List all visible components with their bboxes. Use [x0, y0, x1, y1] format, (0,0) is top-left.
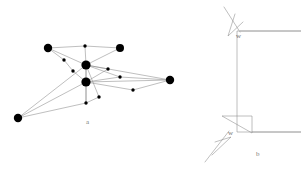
- graph-edge: [133, 80, 170, 90]
- graph-edge: [48, 48, 86, 65]
- graph-node-small: [118, 75, 121, 78]
- graph-node-group: [14, 44, 174, 122]
- graph-edge: [18, 103, 86, 118]
- graph-edge: [64, 60, 73, 71]
- graph-edge: [18, 82, 86, 118]
- graph-edge-group: [18, 46, 170, 118]
- graph-node-small: [62, 58, 65, 61]
- graph-edge: [86, 97, 99, 103]
- graph-node-small: [83, 44, 86, 47]
- region-outline: [237, 31, 301, 132]
- graph-node-large: [14, 114, 22, 122]
- figure-root: a w w b: [0, 0, 301, 174]
- width-label-top: w: [236, 33, 241, 40]
- graph-edge: [18, 65, 86, 118]
- top-diagonal-line: [224, 7, 240, 32]
- graph-edge: [86, 48, 120, 65]
- width-label-bottom: w: [228, 130, 233, 137]
- panel-a-caption: a: [86, 119, 89, 126]
- graph-node-large: [116, 44, 124, 52]
- graph-node-large: [44, 44, 52, 52]
- graph-edge: [86, 82, 133, 90]
- bottom-arrow-wedge-icon: [212, 137, 231, 155]
- graph-node-small: [131, 88, 134, 91]
- graph-node-small: [71, 69, 74, 72]
- panel-a-svg: [0, 0, 195, 174]
- graph-node-large: [81, 77, 90, 86]
- graph-node-large: [166, 76, 174, 84]
- graph-node-small: [97, 95, 100, 98]
- panel-b-diagram: [195, 0, 301, 174]
- panel-b-caption: b: [256, 151, 260, 158]
- graph-edge: [86, 65, 120, 77]
- graph-edge: [85, 46, 120, 48]
- graph-edge: [48, 46, 85, 48]
- panel-a-graph: [0, 0, 195, 174]
- bottom-diagonal-line: [205, 131, 229, 162]
- graph-node-small: [106, 67, 109, 70]
- graph-node-small: [84, 101, 87, 104]
- graph-node-large: [81, 60, 90, 69]
- panel-b-svg: [195, 0, 301, 174]
